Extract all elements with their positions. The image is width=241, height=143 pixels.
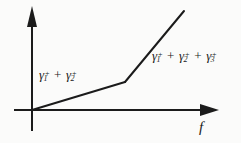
plus-operator: + xyxy=(166,48,176,63)
gamma-term-2: γ2+ xyxy=(66,67,77,82)
superscript-plus: + xyxy=(45,69,50,78)
gamma-term-1: γ1+ xyxy=(39,67,50,82)
upper-slope-segment xyxy=(125,11,184,82)
plus-operator: + xyxy=(193,48,203,63)
x-axis-label: f xyxy=(199,120,203,135)
gamma-term-3: γ3+ xyxy=(206,48,217,63)
superscript-plus: + xyxy=(72,69,77,78)
lower-slope-segment xyxy=(32,82,125,110)
gamma-term-2: γ2+ xyxy=(179,48,190,63)
superscript-plus: + xyxy=(158,50,163,59)
plus-operator: + xyxy=(53,67,63,82)
gamma-term-1: γ1+ xyxy=(152,48,163,63)
arrow-right-icon xyxy=(200,104,219,116)
figure-canvas xyxy=(0,0,241,143)
arrow-up-icon xyxy=(27,6,37,27)
lower-segment-label: γ1+ + γ2+ xyxy=(39,68,77,83)
superscript-plus: + xyxy=(212,50,217,59)
gamma-piecewise-figure: γ1+ + γ2+ γ1+ + γ2+ + γ3+ f xyxy=(0,0,241,143)
superscript-plus: + xyxy=(185,50,190,59)
upper-segment-label: γ1+ + γ2+ + γ3+ xyxy=(152,49,217,64)
